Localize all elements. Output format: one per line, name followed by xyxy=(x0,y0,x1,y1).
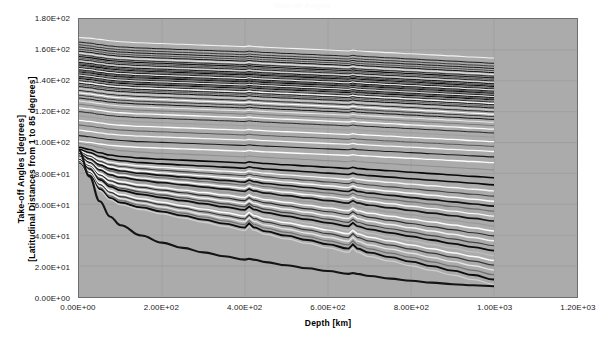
y-axis-title: Take-off Angles [degrees] [Latitudinal D… xyxy=(16,29,38,309)
x-axis-tick-1200: 1.20E+03 xyxy=(560,303,595,312)
x-axis-tick-400: 4.00E+02 xyxy=(227,303,262,312)
x-axis-tick-0: 0.00E+00 xyxy=(60,303,95,312)
x-axis-tick-labels: 0.00E+002.00E+024.00E+026.00E+028.00E+02… xyxy=(0,0,604,342)
x-axis-tick-800: 8.00E+02 xyxy=(394,303,429,312)
chart-figure: Take-off Angles 0.00E+002.00E+014.00E+01… xyxy=(0,0,604,342)
x-axis-title: Depth [km] xyxy=(78,318,578,328)
y-axis-title-line1: Take-off Angles [degrees] xyxy=(16,115,26,223)
x-axis-tick-1000: 1.00E+03 xyxy=(477,303,512,312)
x-axis-tick-200: 2.00E+02 xyxy=(144,303,179,312)
x-axis-tick-600: 6.00E+02 xyxy=(310,303,345,312)
y-axis-title-line2: [Latitudinal Distances from 1 to 85 degr… xyxy=(27,29,38,309)
